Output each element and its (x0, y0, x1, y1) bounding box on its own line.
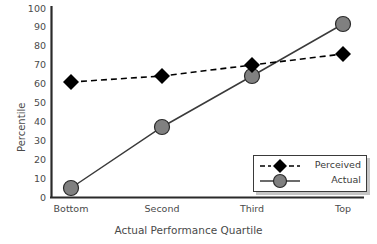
legend-label-perceived: Perceived (315, 159, 361, 170)
chart-figure: 100 90 80 70 60 50 40 30 20 10 0 Bottom … (0, 0, 377, 244)
y-tick-label: 100 (20, 3, 46, 14)
y-axis-title: Percentile (16, 103, 27, 152)
y-tick-label: 0 (20, 192, 46, 203)
legend-item-perceived: Perceived (254, 158, 366, 174)
legend-item-actual: Actual (254, 173, 366, 189)
data-point-perceived-second (154, 68, 170, 84)
legend-label-actual: Actual (331, 174, 361, 185)
data-point-actual-top (336, 17, 351, 32)
legend-swatch-perceived (259, 158, 304, 174)
series-perceived-line (71, 54, 343, 82)
data-point-actual-bottom (64, 181, 79, 196)
y-tick-label: 90 (20, 21, 46, 32)
legend: Perceived Actual (253, 155, 367, 192)
y-tick-label: 20 (20, 154, 46, 165)
y-tick-label: 10 (20, 173, 46, 184)
x-tick-label-top: Top (308, 203, 377, 214)
data-point-actual-second (155, 120, 170, 135)
y-tick-label: 70 (20, 59, 46, 70)
x-tick-label-third: Third (217, 203, 287, 214)
x-tick-label-second: Second (127, 203, 197, 214)
data-point-perceived-top (335, 46, 351, 62)
y-tick-label: 60 (20, 78, 46, 89)
legend-swatch-actual (259, 173, 304, 189)
x-tick-label-bottom: Bottom (36, 203, 106, 214)
data-point-perceived-bottom (63, 74, 79, 90)
y-tick-label: 80 (20, 40, 46, 51)
x-axis-title: Actual Performance Quartile (0, 224, 377, 236)
